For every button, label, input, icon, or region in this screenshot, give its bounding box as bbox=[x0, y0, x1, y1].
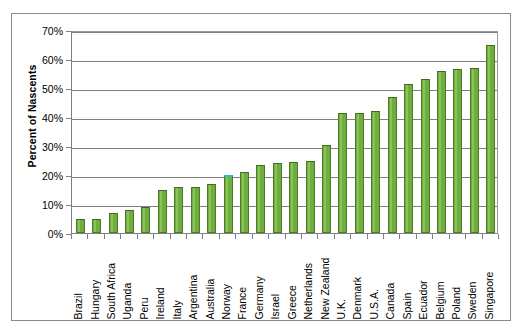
bar[interactable] bbox=[240, 172, 249, 233]
y-tick-label: 60% bbox=[17, 55, 63, 66]
x-axis-label: France bbox=[237, 286, 248, 319]
gridline bbox=[72, 32, 497, 33]
x-tick-mark bbox=[465, 234, 466, 239]
bar-highlight-stripe bbox=[390, 98, 392, 232]
bar[interactable] bbox=[470, 68, 479, 233]
x-tick-mark bbox=[383, 234, 384, 239]
x-tick-mark bbox=[432, 234, 433, 239]
bar[interactable] bbox=[125, 210, 134, 233]
x-tick-mark bbox=[137, 234, 138, 239]
bar[interactable] bbox=[371, 111, 380, 233]
x-axis-label: Australia bbox=[204, 278, 215, 319]
x-tick-mark bbox=[153, 234, 154, 239]
bar[interactable] bbox=[338, 113, 347, 233]
x-tick-mark bbox=[252, 234, 253, 239]
bar[interactable] bbox=[191, 187, 200, 233]
bar-highlight-stripe bbox=[176, 188, 178, 232]
x-axis-label: Norway bbox=[221, 283, 232, 319]
bar[interactable] bbox=[486, 45, 495, 234]
x-axis-label: Peru bbox=[138, 297, 149, 319]
gridline bbox=[72, 177, 497, 178]
bar[interactable] bbox=[109, 213, 118, 233]
x-axis-label: Brazil bbox=[73, 293, 84, 319]
gridline bbox=[72, 119, 497, 120]
x-axis-label: Israel bbox=[270, 293, 281, 319]
bar-highlight-stripe bbox=[127, 211, 129, 232]
x-axis-label: Argentina bbox=[188, 274, 199, 319]
bar[interactable] bbox=[141, 207, 150, 233]
x-tick-mark bbox=[285, 234, 286, 239]
x-axis-label: Ireland bbox=[155, 287, 166, 319]
x-axis-label: U.S.A. bbox=[368, 289, 379, 319]
bar[interactable] bbox=[224, 175, 233, 233]
x-axis-label: Singapore bbox=[483, 271, 494, 319]
bar[interactable] bbox=[207, 184, 216, 233]
bar-highlight-stripe bbox=[439, 72, 441, 232]
bar-highlight-stripe bbox=[488, 46, 490, 233]
x-axis-label: New Zealand bbox=[319, 257, 330, 319]
bar-highlight-stripe bbox=[78, 220, 80, 233]
y-tick-label: 40% bbox=[17, 113, 63, 124]
bar-highlight-stripe bbox=[340, 114, 342, 232]
y-tick-label: 30% bbox=[17, 142, 63, 153]
bar[interactable] bbox=[322, 145, 331, 233]
x-axis-label: Netherlands bbox=[303, 262, 314, 319]
x-tick-mark bbox=[317, 234, 318, 239]
y-tick-label: 50% bbox=[17, 84, 63, 95]
chart-frame: Percent of Nascents 0%10%20%30%40%50%60%… bbox=[11, 13, 511, 321]
x-tick-mark bbox=[399, 234, 400, 239]
bar-highlight-stripe bbox=[94, 220, 96, 233]
gridline bbox=[72, 90, 497, 91]
x-axis-label: Spain bbox=[401, 292, 412, 319]
x-tick-mark bbox=[71, 234, 72, 239]
bar[interactable] bbox=[174, 187, 183, 233]
x-tick-mark bbox=[104, 234, 105, 239]
x-tick-mark bbox=[170, 234, 171, 239]
x-axis-label: Canada bbox=[385, 282, 396, 319]
bar-highlight-stripe bbox=[455, 70, 457, 232]
bar-highlight-stripe bbox=[423, 80, 425, 232]
x-tick-mark bbox=[120, 234, 121, 239]
bar-highlight-stripe bbox=[406, 85, 408, 232]
x-tick-mark bbox=[498, 234, 499, 239]
x-tick-mark bbox=[416, 234, 417, 239]
bar-highlight-stripe bbox=[291, 163, 293, 232]
bar-highlight-stripe bbox=[324, 146, 326, 232]
x-tick-mark bbox=[482, 234, 483, 239]
x-axis-label: South Africa bbox=[106, 262, 117, 319]
x-tick-mark bbox=[186, 234, 187, 239]
bar-highlight-stripe bbox=[111, 214, 113, 232]
x-axis-label: Poland bbox=[450, 286, 461, 319]
bar[interactable] bbox=[76, 219, 85, 234]
x-axis-label: Ecuador bbox=[418, 280, 429, 319]
bar[interactable] bbox=[306, 161, 315, 234]
bar[interactable] bbox=[273, 163, 282, 233]
bar[interactable] bbox=[289, 162, 298, 233]
x-axis-labels: BrazilHungarySouth AfricaUgandaPeruIrela… bbox=[71, 235, 498, 321]
bar-highlight-stripe bbox=[472, 69, 474, 232]
bar-highlight-stripe bbox=[193, 188, 195, 232]
bar-highlight-stripe bbox=[373, 112, 375, 232]
bar-highlight-stripe bbox=[275, 164, 277, 232]
x-tick-mark bbox=[219, 234, 220, 239]
x-tick-mark bbox=[202, 234, 203, 239]
plot-area bbox=[71, 31, 498, 234]
x-tick-mark bbox=[334, 234, 335, 239]
bar-highlight-stripe bbox=[226, 177, 228, 232]
bar[interactable] bbox=[92, 219, 101, 234]
bar[interactable] bbox=[437, 71, 446, 233]
bar[interactable] bbox=[256, 165, 265, 233]
x-axis-label: Greece bbox=[286, 285, 297, 319]
bar[interactable] bbox=[404, 84, 413, 233]
bar-highlight-stripe bbox=[160, 191, 162, 233]
x-axis-label: U.K. bbox=[335, 299, 346, 319]
bar-highlight-stripe bbox=[308, 162, 310, 233]
bar[interactable] bbox=[388, 97, 397, 233]
bar[interactable] bbox=[355, 113, 364, 233]
x-axis-label: Germany bbox=[253, 276, 264, 319]
y-tick-label: 0% bbox=[17, 229, 63, 240]
bar[interactable] bbox=[453, 69, 462, 233]
bar[interactable] bbox=[158, 190, 167, 234]
x-tick-mark bbox=[87, 234, 88, 239]
bar[interactable] bbox=[421, 79, 430, 233]
